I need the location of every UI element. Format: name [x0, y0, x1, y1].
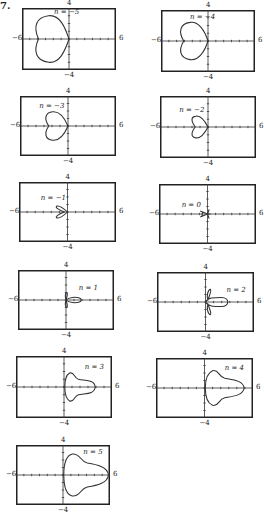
- n-value-label: n = 4: [225, 365, 244, 372]
- y-max-tick-label: 4: [206, 176, 210, 183]
- polar-plot-panel: 4−4−66n = 4: [156, 358, 253, 418]
- plot-canvas: [20, 96, 116, 156]
- x-min-tick-label: −6: [6, 471, 16, 478]
- plot-canvas: [159, 184, 256, 244]
- y-max-tick-label: 4: [66, 88, 70, 95]
- n-value-label: n = −4: [190, 14, 215, 21]
- x-min-tick-label: −6: [12, 35, 22, 42]
- n-value-label: n = −1: [41, 195, 66, 202]
- x-min-tick-label: −6: [10, 122, 20, 129]
- n-value-label: n = 3: [85, 364, 104, 371]
- polar-plot-panel: 4−4−66n = 1: [18, 270, 114, 330]
- polar-plot-panel: 4−4−66n = −1: [19, 182, 116, 242]
- x-max-tick-label: 6: [113, 471, 117, 478]
- x-max-tick-label: 6: [115, 383, 119, 390]
- y-max-tick-label: 4: [203, 350, 207, 357]
- y-min-tick-label: −4: [61, 332, 71, 339]
- polar-plot-panel: 4−4−66n = −5: [22, 8, 116, 70]
- x-min-tick-label: −6: [147, 298, 157, 305]
- y-min-tick-label: −4: [59, 420, 69, 427]
- polar-plot-panel: 4−4−66n = 5: [16, 445, 110, 505]
- y-max-tick-label: 4: [204, 264, 208, 271]
- x-max-tick-label: 6: [119, 35, 123, 42]
- y-max-tick-label: 4: [206, 88, 210, 95]
- x-max-tick-label: 6: [257, 298, 261, 305]
- x-min-tick-label: −6: [8, 296, 18, 303]
- polar-plot-panel: 4−4−66n = 0: [159, 184, 256, 244]
- n-value-label: n = 0: [182, 202, 201, 209]
- n-value-label: n = −3: [39, 103, 64, 110]
- y-max-tick-label: 4: [66, 174, 70, 181]
- x-max-tick-label: 6: [259, 210, 263, 217]
- n-value-label: n = 2: [227, 287, 246, 294]
- x-max-tick-label: 6: [119, 122, 123, 129]
- x-min-tick-label: −6: [146, 384, 156, 391]
- x-min-tick-label: −6: [149, 210, 159, 217]
- y-min-tick-label: −4: [201, 334, 211, 341]
- y-min-tick-label: −4: [64, 72, 74, 79]
- x-min-tick-label: −6: [9, 208, 19, 215]
- plot-canvas: [18, 270, 114, 330]
- problem-number: 7.: [0, 0, 10, 11]
- polar-plot-panel: 4−4−66n = −3: [20, 96, 116, 156]
- x-max-tick-label: 6: [119, 208, 123, 215]
- y-max-tick-label: 4: [67, 0, 71, 7]
- y-max-tick-label: 4: [62, 348, 66, 355]
- y-min-tick-label: −4: [200, 420, 210, 427]
- n-value-label: n = 5: [83, 449, 102, 456]
- x-min-tick-label: −6: [150, 123, 160, 130]
- y-min-tick-label: −4: [203, 160, 213, 167]
- polar-plot-panel: 4−4−66n = −4: [161, 10, 255, 72]
- y-min-tick-label: −4: [63, 244, 73, 251]
- polar-plot-panel: 4−4−66n = 3: [16, 356, 112, 418]
- x-max-tick-label: 6: [117, 296, 121, 303]
- y-min-tick-label: −4: [203, 74, 213, 81]
- plot-canvas: [160, 96, 256, 158]
- y-max-tick-label: 4: [64, 262, 68, 269]
- y-min-tick-label: −4: [58, 507, 68, 514]
- x-max-tick-label: 6: [259, 123, 263, 130]
- y-min-tick-label: −4: [203, 246, 213, 253]
- n-value-label: n = 1: [79, 285, 98, 292]
- x-min-tick-label: −6: [151, 37, 161, 44]
- y-max-tick-label: 4: [206, 2, 210, 9]
- y-max-tick-label: 4: [61, 437, 65, 444]
- n-value-label: n = −2: [179, 107, 204, 114]
- plot-canvas: [22, 8, 116, 70]
- x-max-tick-label: 6: [256, 384, 260, 391]
- plot-canvas: [19, 182, 116, 242]
- y-min-tick-label: −4: [63, 158, 73, 165]
- x-min-tick-label: −6: [6, 383, 16, 390]
- plot-canvas: [157, 272, 254, 332]
- polar-plot-panel: 4−4−66n = −2: [160, 96, 256, 158]
- n-value-label: n = −5: [54, 9, 79, 16]
- x-max-tick-label: 6: [258, 37, 262, 44]
- polar-plot-panel: 4−4−66n = 2: [157, 272, 254, 332]
